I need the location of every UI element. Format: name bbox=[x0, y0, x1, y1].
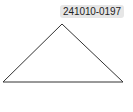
triangle-shape bbox=[0, 0, 133, 112]
triangle-outline bbox=[3, 24, 123, 82]
